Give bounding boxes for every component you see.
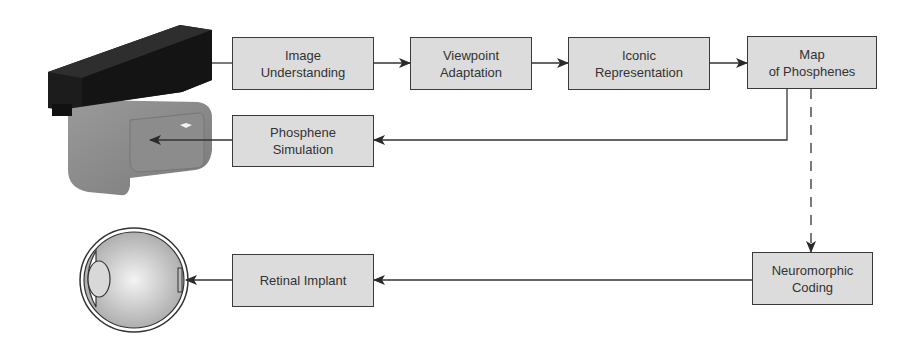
node-neuromorphic-coding: Neuromorphic Coding <box>752 252 873 305</box>
node-image-understanding: Image Understanding <box>232 37 374 90</box>
node-phosphene-simulation: Phosphene Simulation <box>232 115 374 167</box>
node-retinal-implant: Retinal Implant <box>232 254 374 307</box>
node-viewpoint-adaptation: Viewpoint Adaptation <box>410 37 532 90</box>
node-iconic-representation: Iconic Representation <box>568 37 710 90</box>
node-map-of-phosphenes: Map of Phosphenes <box>747 36 877 89</box>
headset-device-icon <box>48 25 212 195</box>
eye-cross-section-icon <box>80 228 188 332</box>
